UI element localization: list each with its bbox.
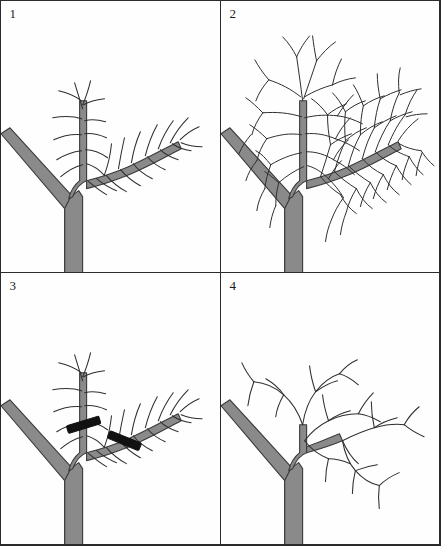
panel-3: 3 xyxy=(0,272,221,546)
cut-marks xyxy=(66,416,141,451)
panel-1-twigs xyxy=(52,80,201,194)
panel-2: 2 xyxy=(220,0,441,273)
panel-2-illustration xyxy=(221,1,440,273)
main-trunk-shape xyxy=(221,400,342,545)
panel-3-twigs xyxy=(52,353,201,467)
panel-4: 4 xyxy=(220,272,441,546)
panel-4-number: 4 xyxy=(230,278,237,294)
panel-4-remaining-branches xyxy=(241,360,423,509)
panel-1-number: 1 xyxy=(10,6,17,22)
panel-1: 1 xyxy=(0,0,221,273)
panel-4-illustration xyxy=(221,273,440,545)
main-trunk-shape xyxy=(1,373,181,545)
panel-3-illustration xyxy=(1,273,220,545)
main-trunk-shape xyxy=(1,100,181,272)
panel-3-number: 3 xyxy=(10,278,17,294)
panel-2-number: 2 xyxy=(230,6,237,22)
panel-2-dense-twigs xyxy=(238,35,433,241)
panel-1-illustration xyxy=(1,1,220,273)
